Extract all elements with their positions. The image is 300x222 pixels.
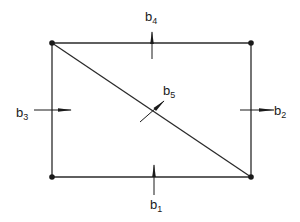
frame-diagram: b4 b5 b3 b2 b1 — [0, 0, 300, 222]
arrow-b1-icon — [152, 164, 156, 195]
label-b2: b2 — [274, 104, 286, 120]
member-diagonal — [52, 43, 251, 177]
arrow-b2-icon — [240, 108, 274, 112]
node-top-left — [49, 40, 55, 46]
label-b1: b1 — [150, 198, 162, 214]
arrow-b5-icon — [140, 101, 165, 123]
node-bottom-right — [248, 174, 254, 180]
label-b3: b3 — [16, 106, 28, 122]
arrow-b4-icon — [150, 31, 154, 59]
diagram-svg — [0, 0, 300, 222]
node-top-right — [248, 40, 254, 46]
arrow-b3-icon — [34, 108, 72, 112]
label-b4: b4 — [145, 10, 157, 26]
label-b5: b5 — [163, 84, 175, 100]
node-bottom-left — [49, 174, 55, 180]
